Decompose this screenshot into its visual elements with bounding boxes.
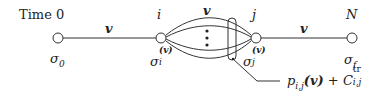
leader-dot bbox=[232, 58, 234, 60]
parallel-edge bbox=[166, 18, 251, 35]
sigma-symbol: σ bbox=[344, 52, 353, 67]
node-sigma0 bbox=[53, 33, 63, 43]
subscript: 0 bbox=[59, 59, 65, 69]
transition-cost-annotation: pi,j(v) + Ctri,j bbox=[287, 74, 369, 87]
c-subscript: i,j bbox=[353, 78, 362, 87]
p-argument: (v) bbox=[304, 73, 324, 88]
ellipsis-dot bbox=[205, 29, 208, 32]
subscript: j bbox=[252, 58, 255, 67]
node-sublabel-sigma-j: σ(v)j bbox=[243, 55, 270, 68]
node-sigma-f bbox=[347, 33, 357, 43]
parallel-edge bbox=[166, 41, 251, 58]
node-label-N: N bbox=[346, 8, 357, 21]
edge-label-v-middle: v bbox=[203, 4, 211, 17]
sigma-symbol: σ bbox=[50, 51, 59, 66]
ellipsis-dot bbox=[205, 43, 208, 46]
superscript: (v) bbox=[159, 46, 173, 55]
c-superscript: tr bbox=[353, 65, 361, 74]
node-label-j: j bbox=[252, 8, 256, 21]
edge-label-v-left: v bbox=[105, 22, 113, 35]
subscript: i bbox=[159, 58, 162, 67]
p-subscript: i,j bbox=[295, 81, 304, 91]
time-start: 0 bbox=[56, 7, 64, 22]
node-sigma-j bbox=[251, 33, 261, 43]
node-sigma-i bbox=[156, 33, 166, 43]
time-word: Time bbox=[19, 7, 52, 22]
node-sublabel-sigma-i: σ(v)i bbox=[150, 55, 177, 68]
time-label: Time 0 bbox=[19, 8, 64, 21]
edge-label-v-right: v bbox=[300, 22, 308, 35]
node-sublabel-sigma0: σ0 bbox=[50, 52, 65, 65]
plus-sign: + bbox=[324, 73, 343, 88]
node-label-i: i bbox=[157, 8, 161, 21]
c-symbol: C bbox=[343, 73, 353, 88]
sigma-symbol: σ bbox=[243, 54, 252, 69]
sigma-symbol: σ bbox=[150, 54, 159, 69]
superscript: (v) bbox=[252, 46, 266, 55]
ellipsis-dot bbox=[205, 36, 208, 39]
